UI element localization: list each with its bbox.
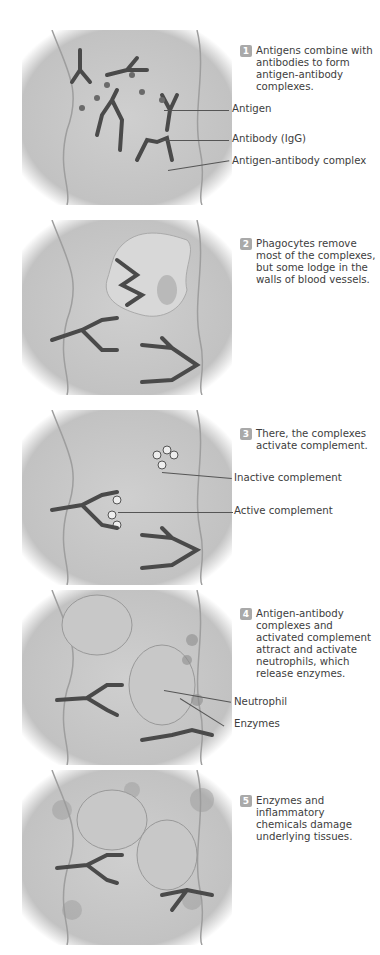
leader-line-active-complement bbox=[118, 512, 233, 513]
step-description-2: 2 Phagocytes remove most of the complexe… bbox=[256, 238, 376, 286]
step-badge-4: 4 bbox=[240, 608, 252, 620]
panel-step-2: 2 Phagocytes remove most of the complexe… bbox=[0, 210, 380, 400]
label-antibody: Antibody (IgG) bbox=[232, 133, 306, 144]
label-enzymes: Enzymes bbox=[234, 718, 280, 729]
step-badge-1: 1 bbox=[240, 45, 252, 57]
step-description-4: 4 Antigen-antibody complexes and activat… bbox=[256, 608, 376, 680]
leader-line-antibody bbox=[160, 140, 229, 141]
neutrophil bbox=[62, 595, 132, 655]
step-text-5: Enzymes and inflammatory chemicals damag… bbox=[256, 795, 352, 842]
step-badge-5: 5 bbox=[240, 795, 252, 807]
step-text-4: Antigen-antibody complexes and activated… bbox=[256, 608, 371, 679]
panel-step-4: 4 Antigen-antibody complexes and activat… bbox=[0, 580, 380, 770]
step-text-3: There, the complexes activate complement… bbox=[256, 428, 368, 451]
label-inactive-complement: Inactive complement bbox=[234, 472, 342, 483]
step-badge-2: 2 bbox=[240, 238, 252, 250]
label-antigen-antibody-complex: Antigen-antibody complex bbox=[232, 155, 366, 166]
step-description-5: 5 Enzymes and inflammatory chemicals dam… bbox=[256, 795, 376, 843]
vessel-illustration-5 bbox=[22, 770, 232, 945]
step-description-1: 1 Antigens combine with antibodies to fo… bbox=[256, 45, 376, 93]
panel-step-5: 5 Enzymes and inflammatory chemicals dam… bbox=[0, 770, 380, 955]
label-neutrophil: Neutrophil bbox=[234, 696, 287, 707]
step-badge-3: 3 bbox=[240, 428, 252, 440]
vessel-illustration-2 bbox=[22, 220, 232, 395]
panel-step-3: 3 There, the complexes activate compleme… bbox=[0, 400, 380, 580]
step-text-2: Phagocytes remove most of the complexes,… bbox=[256, 238, 375, 285]
leader-line-antigen bbox=[164, 110, 229, 111]
vessel-illustration-1 bbox=[22, 30, 232, 205]
neutrophil bbox=[137, 820, 197, 890]
step-description-3: 3 There, the complexes activate compleme… bbox=[256, 428, 376, 452]
label-antigen: Antigen bbox=[232, 103, 271, 114]
vessel-illustration-3 bbox=[22, 410, 232, 585]
panel-step-1: 1 Antigens combine with antibodies to fo… bbox=[0, 0, 380, 200]
label-active-complement: Active complement bbox=[234, 505, 333, 516]
step-text-1: Antigens combine with antibodies to form… bbox=[256, 45, 373, 92]
vessel-illustration-4 bbox=[22, 590, 232, 765]
neutrophil bbox=[77, 790, 147, 850]
